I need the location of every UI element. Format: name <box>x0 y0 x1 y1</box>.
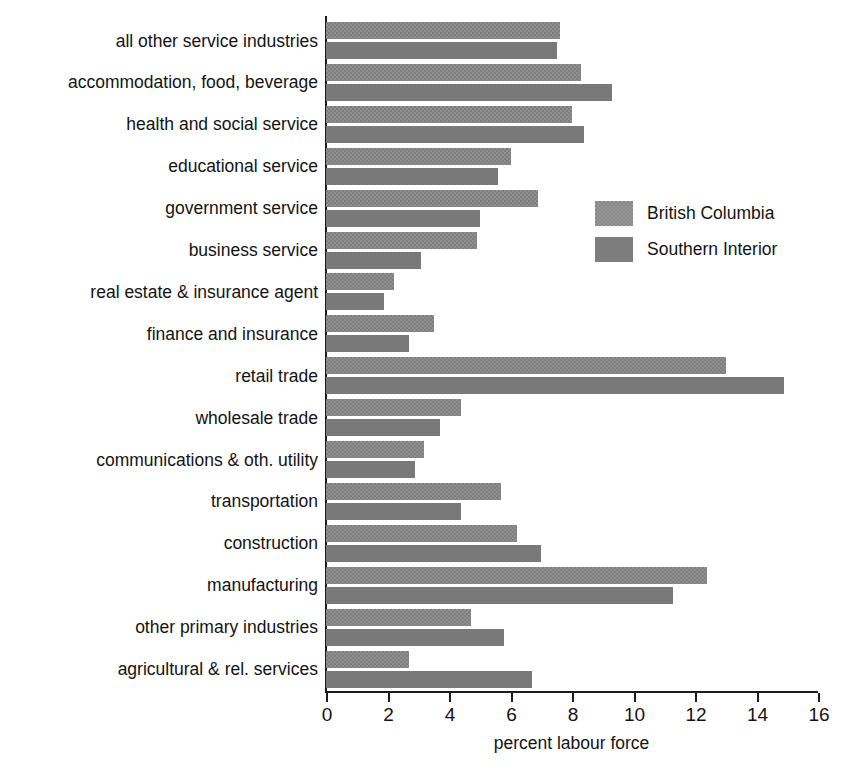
category-label: finance and insurance <box>0 325 318 343</box>
x-tick-label: 16 <box>799 704 839 726</box>
category-label: health and social service <box>0 115 318 133</box>
bar <box>326 587 673 604</box>
x-tick <box>757 693 759 702</box>
bar <box>326 651 409 668</box>
x-tick-label: 8 <box>553 704 593 726</box>
legend-label-british-columbia: British Columbia <box>647 198 774 228</box>
category-label: all other service industries <box>0 32 318 50</box>
bar <box>326 210 480 227</box>
bar <box>326 148 511 165</box>
bar <box>326 315 434 332</box>
bar <box>326 126 584 143</box>
x-tick <box>572 693 574 702</box>
bar <box>326 483 501 500</box>
bar <box>326 232 477 249</box>
bar <box>326 252 421 269</box>
bar <box>326 190 538 207</box>
plot-area: all other service industriesaccommodatio… <box>0 0 854 776</box>
category-label: business service <box>0 241 318 259</box>
bar <box>326 293 384 310</box>
category-label: educational service <box>0 157 318 175</box>
x-tick-label: 6 <box>492 704 532 726</box>
x-tick-label: 2 <box>369 704 409 726</box>
bar <box>326 106 572 123</box>
legend-swatch-icon-southern-interior <box>595 237 633 262</box>
category-label: accommodation, food, beverage <box>0 73 318 91</box>
category-label: other primary industries <box>0 618 318 636</box>
bar <box>326 567 707 584</box>
bar <box>326 503 461 520</box>
bar <box>326 22 560 39</box>
category-label: manufacturing <box>0 576 318 594</box>
x-tick <box>449 693 451 702</box>
bar <box>326 461 415 478</box>
category-label: communications & oth. utility <box>0 451 318 469</box>
category-label: transportation <box>0 492 318 510</box>
bar <box>326 335 409 352</box>
x-tick <box>695 693 697 702</box>
legend-label-southern-interior: Southern Interior <box>647 234 777 264</box>
category-label: construction <box>0 534 318 552</box>
bar <box>326 545 541 562</box>
legend-swatch-icon-british-columbia <box>595 201 633 226</box>
bar <box>326 629 504 646</box>
bar <box>326 357 726 374</box>
bar <box>326 42 557 59</box>
x-tick <box>634 693 636 702</box>
category-label: wholesale trade <box>0 409 318 427</box>
x-tick <box>511 693 513 702</box>
bar <box>326 399 461 416</box>
x-tick-label: 14 <box>738 704 778 726</box>
bar <box>326 64 581 81</box>
x-tick-label: 4 <box>430 704 470 726</box>
bar <box>326 377 784 394</box>
bar <box>326 419 440 436</box>
bar <box>326 671 532 688</box>
x-tick-label: 0 <box>307 704 347 726</box>
x-tick <box>326 693 328 702</box>
category-label: real estate & insurance agent <box>0 283 318 301</box>
category-label: government service <box>0 199 318 217</box>
bar <box>326 168 498 185</box>
x-tick-label: 10 <box>615 704 655 726</box>
x-tick-label: 12 <box>676 704 716 726</box>
x-axis-title: percent labour force <box>325 733 818 753</box>
bar <box>326 84 612 101</box>
category-label: agricultural & rel. services <box>0 660 318 678</box>
x-tick <box>818 693 820 702</box>
bar <box>326 273 394 290</box>
x-tick <box>388 693 390 702</box>
bar <box>326 609 471 626</box>
bar <box>326 525 517 542</box>
bar <box>326 441 424 458</box>
bar-chart: all other service industriesaccommodatio… <box>0 0 854 776</box>
category-label: retail trade <box>0 367 318 385</box>
